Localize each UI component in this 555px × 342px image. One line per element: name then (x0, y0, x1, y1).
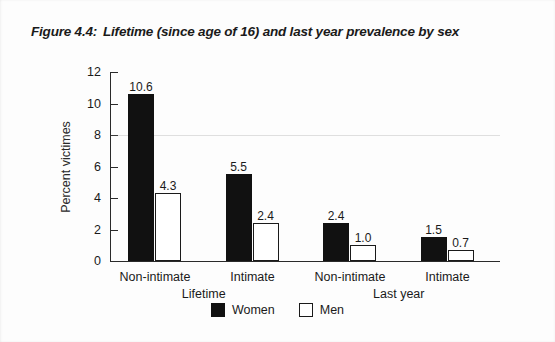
y-tick-label-8: 8 (94, 129, 101, 142)
x-axis-line (110, 261, 500, 262)
bar-value-women-3: 1.5 (425, 224, 442, 236)
y-tick-4 (111, 198, 118, 199)
y-tick-10 (111, 104, 118, 105)
figure-title-text: Lifetime (since age of 16) and last year… (103, 24, 459, 39)
x-category-label-3: Intimate (425, 271, 469, 284)
legend-item-men: Men (299, 303, 344, 317)
bar-men-3: 0.7 (448, 250, 474, 261)
y-axis-label: Percent victimes (58, 72, 74, 262)
legend-label-women: Women (232, 303, 275, 317)
y-tick-label-10: 10 (87, 97, 101, 110)
chart-legend: Women Men (0, 303, 555, 317)
y-tick-12 (111, 72, 118, 73)
faint-scan-line (111, 135, 500, 136)
bar-men-2: 1.0 (350, 245, 376, 261)
bar-value-women-0: 10.6 (129, 81, 152, 93)
y-tick-label-0: 0 (94, 255, 101, 268)
legend-item-women: Women (211, 303, 275, 317)
figure-caption: Figure 4.4:Lifetime (since age of 16) an… (31, 24, 531, 39)
legend-label-men: Men (320, 303, 344, 317)
bar-women-2: 2.4 (323, 223, 349, 261)
x-category-label-1: Intimate (230, 271, 274, 284)
bar-value-women-2: 2.4 (328, 210, 345, 222)
figure-number: Figure 4.4: (31, 24, 103, 39)
bar-men-1: 2.4 (253, 223, 279, 261)
x-category-label-2: Non-intimate (315, 271, 386, 284)
y-tick-2 (111, 230, 118, 231)
x-group-label-0: Lifetime (182, 288, 226, 301)
bar-men-0: 4.3 (155, 193, 181, 261)
bar-value-men-0: 4.3 (160, 180, 177, 192)
plot-area: 02468101210.64.35.52.42.41.01.50.7 (110, 72, 500, 262)
y-tick-label-6: 6 (94, 160, 101, 173)
bar-value-men-3: 0.7 (452, 237, 469, 249)
figure-page: Figure 4.4:Lifetime (since age of 16) an… (0, 0, 555, 342)
legend-swatch-women-icon (211, 303, 225, 317)
y-tick-label-12: 12 (87, 66, 101, 79)
y-tick-6 (111, 167, 118, 168)
legend-swatch-men-icon (299, 303, 313, 317)
x-category-label-0: Non-intimate (120, 271, 191, 284)
bar-value-men-1: 2.4 (257, 210, 274, 222)
bar-women-1: 5.5 (226, 174, 252, 261)
bar-value-men-2: 1.0 (355, 232, 372, 244)
bar-women-3: 1.5 (421, 237, 447, 261)
bar-women-0: 10.6 (128, 94, 154, 261)
y-tick-0 (111, 261, 118, 262)
y-tick-label-4: 4 (94, 192, 101, 205)
x-group-label-1: Last year (373, 288, 424, 301)
y-tick-label-2: 2 (94, 223, 101, 236)
bar-value-women-1: 5.5 (230, 161, 247, 173)
